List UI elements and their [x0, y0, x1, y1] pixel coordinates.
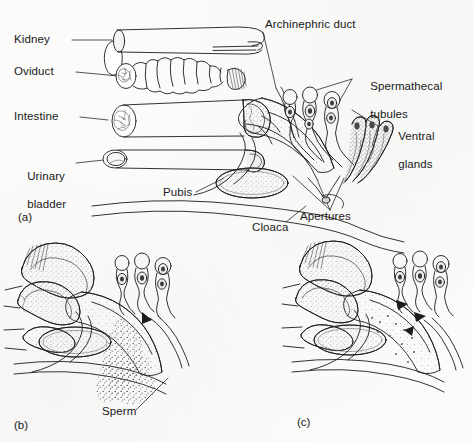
label-ventral-glands: Ventral glands: [385, 115, 435, 185]
label-urinary-bladder-line1: Urinary: [27, 170, 65, 182]
label-oviduct: Oviduct: [14, 65, 54, 79]
anatomy-figure: Kidney Oviduct Intestine Urinary bladder…: [0, 0, 473, 442]
label-sperm: Sperm: [102, 405, 136, 419]
panel-label-b: (b): [14, 419, 28, 431]
label-kidney: Kidney: [14, 33, 50, 47]
label-apertures: Apertures: [300, 210, 351, 224]
panel-c-drawing: [282, 241, 463, 392]
oviduct-structure: [116, 58, 246, 95]
panel-b-drawing: [4, 243, 189, 410]
label-pubis: Pubis: [163, 186, 192, 200]
label-ventral-line2: glands: [398, 158, 433, 170]
body-wall-panel-a: [92, 201, 404, 253]
label-cloaca: Cloaca: [252, 221, 288, 235]
label-spermathecal-line1: Spermathecal: [370, 80, 442, 92]
panel-label-c: (c): [297, 416, 310, 428]
panel-label-a: (a): [18, 211, 32, 223]
pubis-structure: [216, 168, 288, 198]
label-archinephric-duct: Archinephric duct: [265, 18, 356, 32]
label-intestine: Intestine: [14, 110, 58, 124]
label-ventral-line1: Ventral: [398, 130, 435, 142]
label-urinary-bladder-line2: bladder: [27, 198, 66, 210]
